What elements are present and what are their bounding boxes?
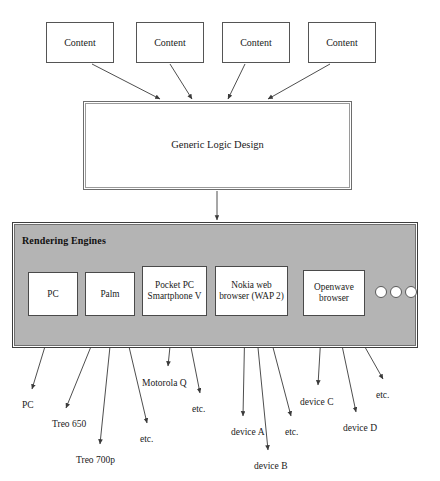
device-label: Motorola Q [142,378,187,388]
content-box-label: Content [326,37,358,49]
rendering-engines-title: Rendering Engines [22,235,106,246]
content-box[interactable]: Content [46,22,114,63]
device-label: device A [231,427,265,437]
device-label: device D [343,423,377,433]
device-label: etc. [285,427,298,437]
content-box[interactable]: Content [222,22,290,63]
content-box-label: Content [64,37,96,49]
engine-box-label: PC [47,289,58,300]
generic-logic-design-label: Generic Logic Design [171,139,264,151]
engine-box[interactable]: Palm [85,272,135,316]
device-label: Treo 650 [52,419,86,429]
device-label: etc. [192,404,205,414]
engine-box-label: Palm [100,289,119,300]
device-label: etc. [376,390,389,400]
arrow-content-to-logic [92,64,160,99]
ellipsis-dot-icon [375,286,387,298]
generic-logic-design-box[interactable]: Generic Logic Design [83,101,352,190]
engine-box[interactable]: Pocket PC Smartphone V [142,266,207,316]
engine-box-label: Nokia web browser (WAP 2) [216,280,287,301]
arrow-content-to-logic [170,64,192,99]
content-box[interactable]: Content [136,22,204,63]
content-box-label: Content [154,37,186,49]
device-label: Treo 700p [76,455,115,465]
arrow-content-to-logic [268,64,330,99]
content-box-label: Content [240,37,272,49]
arrow-content-to-logic [228,64,245,99]
device-label: device B [254,461,288,471]
device-label: device C [300,397,334,407]
ellipsis-dot-icon [405,286,417,298]
engine-box-label: Openwave browser [304,282,364,303]
ellipsis-dot-icon [390,286,402,298]
content-box[interactable]: Content [308,22,376,63]
engine-box[interactable]: Nokia web browser (WAP 2) [215,266,288,316]
engine-box[interactable]: Openwave browser [303,270,365,316]
device-label: PC [22,400,34,410]
device-label: etc. [140,434,153,444]
arrows-content-to-logic [92,64,330,99]
engine-box-label: Pocket PC Smartphone V [143,280,206,301]
engine-box[interactable]: PC [28,272,78,316]
diagram-canvas: ContentContentContentContent Generic Log… [0,0,440,481]
